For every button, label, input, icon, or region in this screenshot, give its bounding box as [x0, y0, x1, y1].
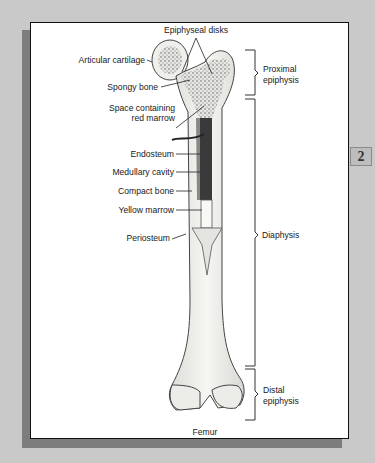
label-space-red-marrow-2: red marrow — [132, 113, 176, 123]
proximal-bracket — [245, 50, 258, 95]
label-distal-1: Distal — [263, 385, 285, 395]
figure-title: Femur — [193, 427, 218, 437]
label-spongy-bone: Spongy bone — [107, 82, 158, 92]
label-distal-2: epiphysis — [263, 396, 299, 406]
label-yellow-marrow: Yellow marrow — [118, 205, 174, 215]
femur-bone — [152, 40, 244, 410]
label-proximal-2: epiphysis — [263, 75, 299, 85]
label-epiphyseal-disks: Epiphyseal disks — [164, 25, 228, 35]
label-compact-bone: Compact bone — [118, 186, 174, 196]
yellow-marrow — [201, 200, 212, 228]
label-endosteum: Endosteum — [131, 149, 174, 159]
diaphysis-bracket — [245, 99, 258, 366]
label-medullary-cavity: Medullary cavity — [112, 167, 174, 177]
label-proximal-1: Proximal — [263, 64, 297, 74]
femur-diagram: Epiphyseal disks Articular cartilage Spo… — [0, 0, 375, 463]
region-brackets — [245, 50, 258, 420]
distal-bracket — [245, 369, 258, 420]
label-space-red-marrow-1: Space containing — [109, 103, 175, 113]
label-periosteum: Periosteum — [127, 233, 170, 243]
label-articular-cartilage: Articular cartilage — [79, 55, 146, 65]
label-diaphysis: Diaphysis — [262, 230, 299, 240]
medullary-cavity — [200, 118, 212, 200]
